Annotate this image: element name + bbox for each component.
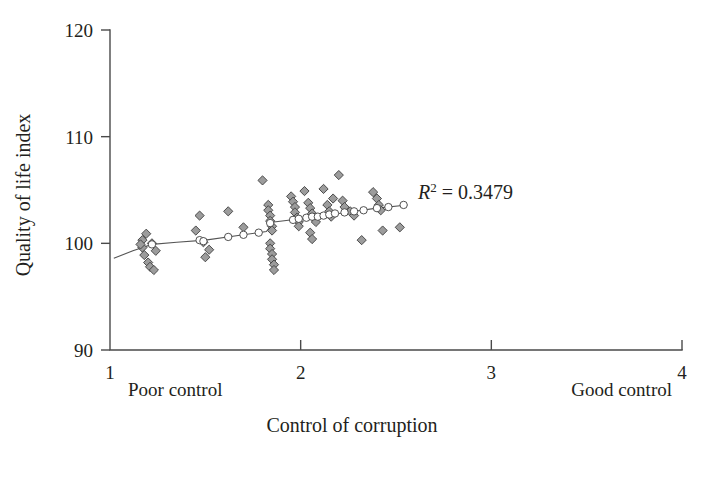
y-tick-label: 90 [74,340,93,361]
data-point-marker [300,186,309,195]
x-tick-label: 3 [487,362,497,383]
fitted-point-marker [331,210,338,217]
data-point-marker [258,176,267,185]
data-point-marker [357,236,366,245]
data-point-marker [191,226,200,235]
fitted-point-marker [373,204,380,211]
y-tick-label: 110 [65,127,93,148]
data-point-marker [239,223,248,232]
fitted-point-marker [341,209,348,216]
axes [101,30,682,350]
data-point-marker [328,194,337,203]
fitted-point-marker [255,229,262,236]
fitted-point-marker [360,207,367,214]
r-squared-annotation: R2 = 0.3479 [417,180,513,203]
x-tick-label: 4 [677,362,687,383]
y-tick-label: 120 [65,20,94,41]
r-squared-symbol: R [417,181,430,203]
data-point-marker [395,223,404,232]
scatter-plot-figure: 90100110120 1234 Quality of life index C… [0,0,708,479]
fitted-point-marker [295,215,302,222]
y-tick-label: 100 [65,233,94,254]
chart-canvas: 90100110120 1234 Quality of life index C… [0,0,708,479]
fitted-point-marker [200,238,207,245]
data-point-marker [319,184,328,193]
data-point-marker [195,211,204,220]
data-point-marker [269,265,278,274]
fitted-point-marker [385,203,392,210]
x-tick-label: 2 [296,362,306,383]
fitted-point-marker [400,201,407,208]
y-axis-title: Quality of life index [12,114,35,277]
data-point-marker [378,226,387,235]
fitted-point-marker [350,208,357,215]
x-axis-title: Control of corruption [266,414,437,437]
data-point-marker [224,207,233,216]
x-range-low-label: Poor control [128,379,222,400]
y-axis-tick-labels: 90100110120 [65,20,94,361]
x-tick-label: 1 [105,362,115,383]
r-squared-value: = 0.3479 [437,181,513,203]
fitted-point-marker [225,233,232,240]
x-range-high-label: Good control [571,379,672,400]
fitted-point-marker [240,231,247,238]
fitted-point-marker [266,219,273,226]
data-point-marker [334,170,343,179]
fitted-point-marker [148,241,155,248]
